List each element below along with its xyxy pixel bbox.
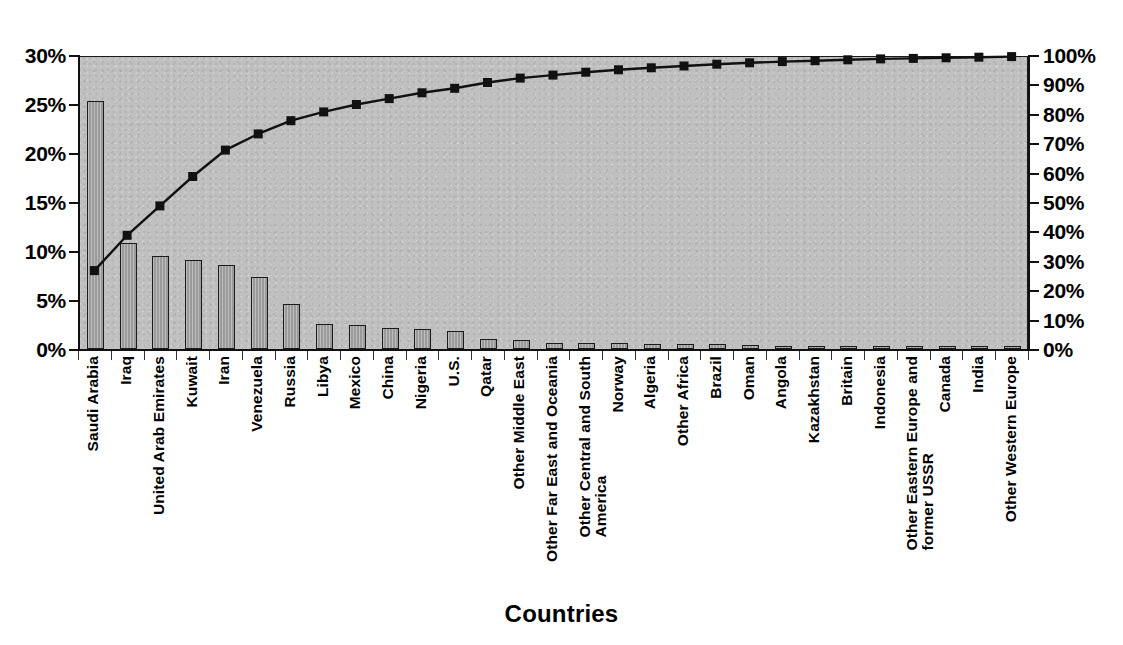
category-label-algeria: Algeria: [642, 356, 658, 409]
y-right-tick-label: 60%: [1043, 162, 1084, 186]
category-label-other-middle-east: Other Middle East: [511, 356, 527, 489]
category-label-line: U.S.: [445, 356, 462, 387]
y-left-tick-label: 25%: [25, 93, 66, 117]
y-left-tick: [69, 104, 78, 106]
category-label-line: Brazil: [707, 356, 724, 399]
bar-russia: [283, 304, 300, 349]
category-label-line: Iran: [215, 356, 232, 385]
y-right-tick: [1030, 173, 1039, 175]
y-left-tick-label: 20%: [25, 142, 66, 166]
category-label-united-arab-emirates: United Arab Emirates: [151, 356, 167, 515]
category-label-line: Oman: [740, 356, 757, 400]
category-label-line: Britain: [838, 356, 855, 406]
bar-iraq: [120, 243, 137, 349]
category-label-norway: Norway: [610, 356, 626, 413]
category-label-india: India: [970, 356, 986, 393]
y-right-tick: [1030, 55, 1039, 57]
bar-qatar: [480, 339, 497, 349]
category-label-canada: Canada: [937, 356, 953, 413]
y-right-tick: [1030, 320, 1039, 322]
y-right-tick-label: 50%: [1043, 191, 1084, 215]
y-left-tick: [69, 202, 78, 204]
category-label-mexico: Mexico: [347, 356, 363, 409]
y-left-tick: [69, 153, 78, 155]
y-axis-left: [78, 55, 80, 351]
category-label-britain: Britain: [839, 356, 855, 406]
y-left-tick-label: 10%: [25, 240, 66, 264]
chart-title-clipped: [0, 0, 1123, 2]
category-label-saudi-arabia: Saudi Arabia: [85, 356, 101, 451]
bar-u-s: [447, 331, 464, 349]
category-label-nigeria: Nigeria: [413, 356, 429, 409]
y-right-tick-label: 10%: [1043, 309, 1084, 333]
category-label-brazil: Brazil: [708, 356, 724, 399]
y-left-tick-label: 15%: [25, 191, 66, 215]
y-right-tick-label: 40%: [1043, 220, 1084, 244]
y-right-tick-label: 90%: [1043, 73, 1084, 97]
bar-iran: [218, 265, 235, 349]
category-label-line: Other Africa: [674, 356, 691, 446]
category-label-china: China: [380, 356, 396, 400]
category-label-other-far-east-and-oceania: Other Far East and Oceania: [544, 356, 560, 562]
y-right-tick: [1030, 114, 1039, 116]
category-label-line: Nigeria: [412, 356, 429, 409]
category-label-line: Algeria: [641, 356, 658, 409]
category-label-line: Venezuela: [248, 356, 265, 432]
category-label-line: Kazakhstan: [805, 356, 822, 443]
bar-mexico: [349, 325, 366, 350]
bar-venezuela: [251, 277, 268, 349]
bar-saudi-arabia: [87, 101, 104, 349]
y-right-tick-label: 20%: [1043, 279, 1084, 303]
y-right-tick: [1030, 202, 1039, 204]
plot-area: [78, 56, 1028, 350]
y-left-tick: [69, 349, 78, 351]
y-left-tick-label: 5%: [36, 289, 66, 313]
bar-nigeria: [414, 329, 431, 349]
category-label-line: United Arab Emirates: [150, 356, 167, 515]
x-axis: [78, 349, 1030, 351]
y-left-tick-label: 30%: [25, 44, 66, 68]
category-label-line: Other Western Europe: [1002, 356, 1019, 522]
category-label-indonesia: Indonesia: [872, 356, 888, 429]
bar-kuwait: [185, 260, 202, 349]
category-label-other-central-and-south-america: Other Central and SouthAmerica: [577, 356, 610, 537]
y-right-tick-label: 30%: [1043, 250, 1084, 274]
category-label-line: Saudi Arabia: [84, 356, 101, 451]
category-label-kuwait: Kuwait: [184, 356, 200, 407]
category-label-other-western-europe: Other Western Europe: [1003, 356, 1019, 522]
category-label-other-eastern-europe-and-former-ussr: Other Eastern Europe andformer USSR: [904, 356, 937, 550]
category-label-line: Iraq: [117, 356, 134, 385]
category-label-u-s: U.S.: [446, 356, 462, 387]
category-label-iran: Iran: [216, 356, 232, 385]
y-right-tick: [1030, 349, 1039, 351]
category-label-line: America: [593, 356, 609, 537]
bar-other-middle-east: [513, 340, 530, 349]
category-label-line: Qatar: [477, 356, 494, 397]
y-right-tick: [1030, 261, 1039, 263]
y-left-tick: [69, 251, 78, 253]
y-right-tick: [1030, 290, 1039, 292]
pareto-chart: 0%5%10%15%20%25%30% 0%10%20%30%40%50%60%…: [0, 0, 1123, 645]
y-right-tick-label: 100%: [1043, 44, 1096, 68]
category-label-russia: Russia: [282, 356, 298, 407]
category-label-libya: Libya: [315, 356, 331, 397]
bar-china: [382, 328, 399, 349]
y-right-tick: [1030, 231, 1039, 233]
category-label-qatar: Qatar: [478, 356, 494, 397]
category-label-iraq: Iraq: [118, 356, 134, 385]
y-left-tick: [69, 300, 78, 302]
category-label-kazakhstan: Kazakhstan: [806, 356, 822, 443]
category-label-line: India: [969, 356, 986, 393]
category-label-line: Canada: [936, 356, 953, 413]
x-axis-category-labels: Saudi ArabiaIraqUnited Arab EmiratesKuwa…: [0, 352, 1123, 612]
y-left-tick: [69, 55, 78, 57]
bar-libya: [316, 324, 333, 349]
category-label-line: Norway: [609, 356, 626, 413]
x-axis-title: Countries: [0, 600, 1123, 628]
category-label-line: Libya: [314, 356, 331, 397]
y-right-tick-label: 80%: [1043, 103, 1084, 127]
category-label-venezuela: Venezuela: [249, 356, 265, 432]
category-label-line: Other Far East and Oceania: [543, 356, 560, 562]
category-label-line: China: [379, 356, 396, 400]
category-label-line: Other Middle East: [510, 356, 527, 489]
